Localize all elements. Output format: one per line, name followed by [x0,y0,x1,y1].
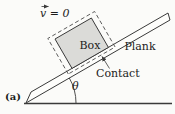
plank-label: Plank [124,40,156,53]
diagram-canvas: v = 0 Box Plank Contact θ (a) [0,0,175,114]
angle-label: θ [72,80,79,93]
incline-figure: v = 0 Box Plank Contact θ (a) [0,0,175,114]
panel-label: (a) [5,91,21,102]
contact-label: Contact [96,67,140,80]
velocity-label: v = 0 [40,7,69,20]
plank-shape [26,13,170,103]
box-label: Box [80,39,102,52]
